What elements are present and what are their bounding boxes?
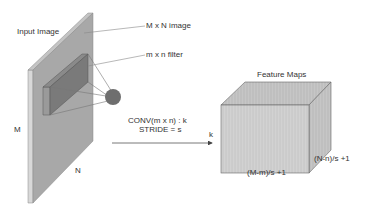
filter-leader-line: [88, 55, 145, 66]
feature-maps-label: Feature Maps: [257, 71, 306, 79]
k-label: k: [209, 131, 213, 139]
stride-label: STRIDE = s: [139, 126, 181, 134]
neuron-node: [105, 89, 121, 105]
input-image-label: Input Image: [17, 28, 59, 36]
image-size-label: M x N image: [146, 22, 191, 30]
output-height-label: (N-n)/s +1: [314, 155, 350, 163]
conv-label: CONV(m x n) : k: [128, 117, 187, 125]
output-width-label: (M-m)/s +1: [247, 169, 286, 177]
input-image-panel: [28, 13, 93, 203]
dimension-M-label: M: [14, 126, 21, 134]
dimension-N-label: N: [75, 167, 81, 175]
filter-size-label: m x n filter: [146, 51, 183, 59]
